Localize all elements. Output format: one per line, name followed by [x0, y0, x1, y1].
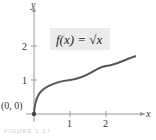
sqrt-curve: [34, 56, 136, 114]
chart-canvas: 1 2 1 2 x y (0, 0): [0, 0, 156, 140]
y-axis-label: y: [30, 0, 36, 10]
origin-point: [32, 112, 36, 116]
function-label: f(x) = √x: [56, 32, 102, 48]
origin-label: (0, 0): [1, 100, 23, 112]
figure-caption: FIGURE 1.17: [4, 128, 51, 134]
x-tick-label-2: 2: [103, 118, 108, 129]
x-axis-label: x: [145, 108, 151, 119]
x-tick-label-1: 1: [67, 118, 72, 129]
y-tick-label-2: 2: [22, 41, 27, 52]
y-tick-label-1: 1: [22, 75, 27, 86]
